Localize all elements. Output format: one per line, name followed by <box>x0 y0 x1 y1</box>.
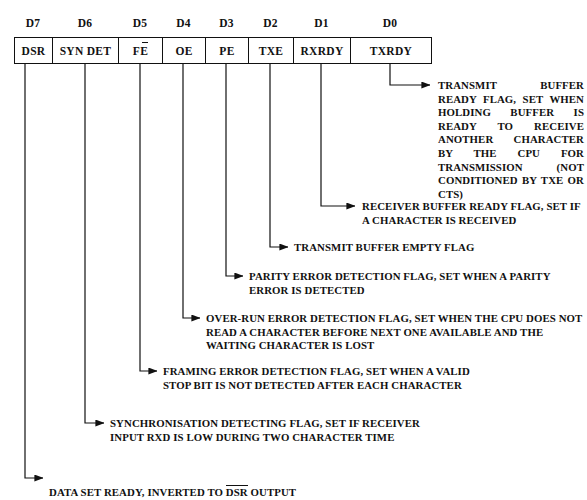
register-cell-txe[interactable]: TXE <box>249 38 294 63</box>
bit-label-d1: D1 <box>293 17 350 29</box>
register-cell-fe-label: FE <box>133 45 148 57</box>
bit-label-d0: D0 <box>350 17 430 29</box>
annotation-dsr-overlined-term: DSR <box>226 486 248 500</box>
bit-label-d4: D4 <box>162 17 205 29</box>
bit-label-d5: D5 <box>118 17 162 29</box>
register-cell-syn-det[interactable]: SYN DET <box>53 38 119 63</box>
bit-label-d3: D3 <box>205 17 248 29</box>
leader-fe <box>140 64 157 371</box>
register-cell-pe[interactable]: PE <box>206 38 249 63</box>
annotation-rxrdy: RECEIVER BUFFER READY FLAG, SET IF A CHA… <box>362 200 584 227</box>
status-register-diagram: D7 D6 D5 D4 D3 D2 D1 D0 DSR SYN DET FE O… <box>0 0 587 500</box>
annotation-syn-det: SYNCHRONISATION DETECTING FLAG, SET IF R… <box>110 417 430 444</box>
leader-syn-det <box>85 64 104 423</box>
register-cell-fe[interactable]: FE <box>119 38 163 63</box>
bit-label-d2: D2 <box>248 17 293 29</box>
annotation-txrdy: TRANSMIT BUFFER READY FLAG, SET WHEN HOL… <box>438 79 584 201</box>
register-cell-oe[interactable]: OE <box>163 38 206 63</box>
annotation-oe: OVER-RUN ERROR DETECTION FLAG, SET WHEN … <box>206 312 584 353</box>
leader-dsr <box>25 64 43 478</box>
leader-txrdy <box>390 64 430 85</box>
register-cell-rxrdy[interactable]: RXRDY <box>294 38 351 63</box>
annotation-dsr-text-before: DATA SET READY, INVERTED TO <box>49 486 226 498</box>
annotation-txe: TRANSMIT BUFFER EMPTY FLAG <box>294 241 584 255</box>
annotation-pe: PARITY ERROR DETECTION FLAG, SET WHEN A … <box>249 270 569 297</box>
leader-rxrdy <box>321 64 355 206</box>
register-cell-txrdy[interactable]: TXRDY <box>351 38 431 63</box>
leader-oe <box>183 64 200 318</box>
annotation-dsr-text-after: OUTPUT <box>248 486 296 498</box>
annotation-dsr: DATA SET READY, INVERTED TO DSR OUTPUT <box>49 472 469 499</box>
leader-txe <box>270 64 288 247</box>
leader-pe <box>226 64 243 276</box>
annotation-fe: FRAMING ERROR DETECTION FLAG, SET WHEN A… <box>163 365 483 392</box>
bit-label-d6: D6 <box>52 17 118 29</box>
register-cell-dsr[interactable]: DSR <box>15 38 53 63</box>
register-box: DSR SYN DET FE OE PE TXE RXRDY TXRDY <box>14 37 432 64</box>
bit-label-d7: D7 <box>14 17 52 29</box>
